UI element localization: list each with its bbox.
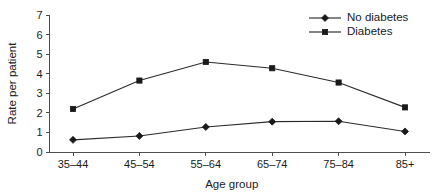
x-tick-label: 75–84 [323, 158, 354, 170]
data-point-marker [203, 59, 208, 64]
data-point-marker [70, 136, 77, 143]
y-tick-label: 0 [36, 146, 42, 158]
data-point-marker [402, 105, 407, 110]
y-tick-label: 6 [36, 29, 42, 41]
data-point-marker [335, 118, 342, 125]
legend-marker-icon [322, 29, 327, 34]
x-axis-title: Age group [205, 178, 258, 190]
data-point-marker [202, 123, 209, 130]
y-tick-label: 3 [36, 87, 42, 99]
chart-container: 0123456735–4445–5455–6465–7475–8485+Age … [0, 0, 437, 195]
data-point-marker [270, 66, 275, 71]
series-line [73, 62, 405, 109]
y-tick-label: 4 [36, 68, 42, 80]
legend-label: No diabetes [347, 11, 409, 23]
legend: No diabetesDiabetes [309, 11, 409, 37]
data-series [70, 59, 407, 111]
series-line [73, 121, 405, 140]
data-point-marker [136, 132, 143, 139]
y-tick-label: 1 [36, 126, 42, 138]
legend-item: Diabetes [309, 25, 393, 37]
y-axis-ticks: 01234567 [36, 9, 49, 158]
data-point-marker [402, 128, 409, 135]
y-tick-label: 2 [36, 107, 42, 119]
x-tick-label: 85+ [396, 158, 415, 170]
data-point-marker [336, 80, 341, 85]
line-chart: 0123456735–4445–5455–6465–7475–8485+Age … [0, 0, 437, 195]
x-axis-ticks: 35–4445–5455–6465–7475–8485+ [58, 152, 415, 170]
data-point-marker [70, 106, 75, 111]
legend-label: Diabetes [347, 25, 393, 37]
x-tick-label: 35–44 [58, 158, 89, 170]
y-axis-title: Rate per patient [6, 42, 18, 125]
legend-marker-icon [322, 15, 329, 22]
x-tick-label: 65–74 [257, 158, 288, 170]
y-tick-label: 5 [36, 48, 42, 60]
legend-item: No diabetes [309, 11, 409, 23]
data-series [70, 118, 409, 144]
data-point-marker [269, 118, 276, 125]
y-tick-label: 7 [36, 9, 42, 21]
x-tick-label: 55–64 [191, 158, 222, 170]
x-tick-label: 45–54 [124, 158, 155, 170]
data-point-marker [137, 78, 142, 83]
